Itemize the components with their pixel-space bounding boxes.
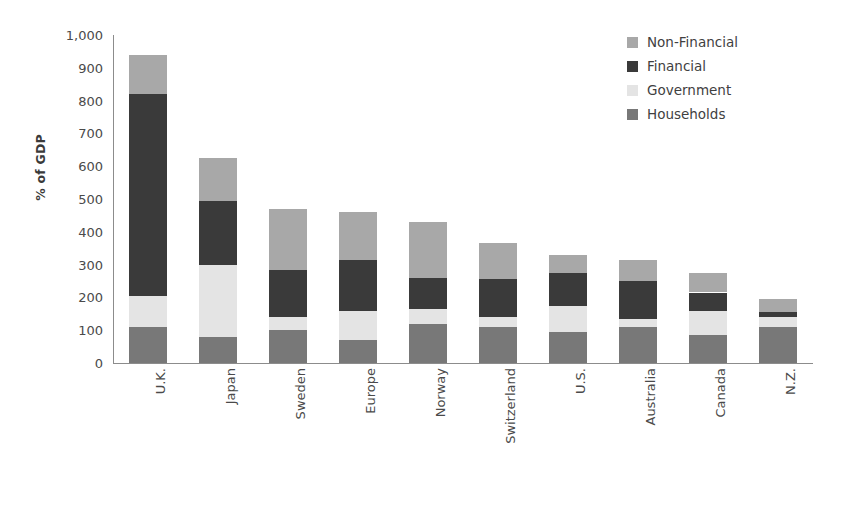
x-tick-label: Norway <box>433 368 448 488</box>
bar-segment[interactable] <box>689 293 727 311</box>
x-axis-tick-labels: U.K.JapanSwedenEuropeNorwaySwitzerlandU.… <box>113 366 813 486</box>
bar-segment[interactable] <box>759 327 797 363</box>
y-tick-label: 1,000 <box>43 29 103 42</box>
bar-group[interactable] <box>409 222 447 363</box>
bar-group[interactable] <box>549 255 587 363</box>
bar-group[interactable] <box>269 209 307 363</box>
legend-item[interactable]: Financial <box>627 54 837 78</box>
bar-segment[interactable] <box>759 317 797 327</box>
bar-segment[interactable] <box>479 327 517 363</box>
x-tick-label: Japan <box>223 368 238 488</box>
legend-label: Non-Financial <box>647 34 738 50</box>
bar-segment[interactable] <box>619 319 657 327</box>
x-tick-label: N.Z. <box>783 368 798 488</box>
x-tick-label: Canada <box>713 368 728 488</box>
legend-label: Government <box>647 82 731 98</box>
bar-segment[interactable] <box>479 279 517 317</box>
y-tick-label: 900 <box>43 61 103 74</box>
y-tick-label: 500 <box>43 193 103 206</box>
bar-segment[interactable] <box>409 222 447 278</box>
bar-segment[interactable] <box>549 332 587 363</box>
legend-swatch-icon <box>627 85 638 96</box>
y-tick-label: 400 <box>43 225 103 238</box>
bar-segment[interactable] <box>619 281 657 319</box>
x-tick-label: Europe <box>363 368 378 488</box>
bar-segment[interactable] <box>689 273 727 293</box>
legend-swatch-icon <box>627 61 638 72</box>
y-axis-tick-labels: 01002003004005006007008009001,000 <box>43 35 105 363</box>
bar-segment[interactable] <box>339 311 377 341</box>
legend-label: Households <box>647 106 725 122</box>
y-tick-label: 0 <box>43 357 103 370</box>
legend-label: Financial <box>647 58 706 74</box>
bar-segment[interactable] <box>409 324 447 363</box>
y-tick-label: 100 <box>43 324 103 337</box>
y-tick-label: 600 <box>43 160 103 173</box>
bar-segment[interactable] <box>129 55 167 94</box>
x-axis-line <box>113 363 813 364</box>
x-tick-label: U.S. <box>573 368 588 488</box>
bar-segment[interactable] <box>269 270 307 318</box>
legend-swatch-icon <box>627 109 638 120</box>
bar-segment[interactable] <box>549 306 587 332</box>
y-tick-label: 300 <box>43 258 103 271</box>
bar-segment[interactable] <box>619 327 657 363</box>
y-tick-label: 200 <box>43 291 103 304</box>
bar-segment[interactable] <box>199 201 237 265</box>
bar-group[interactable] <box>759 299 797 363</box>
legend-item[interactable]: Government <box>627 78 837 102</box>
bar-segment[interactable] <box>129 94 167 296</box>
x-tick-label: Sweden <box>293 368 308 488</box>
bar-segment[interactable] <box>339 260 377 311</box>
bar-segment[interactable] <box>269 330 307 363</box>
x-tick-label: Australia <box>643 368 658 488</box>
bar-segment[interactable] <box>129 296 167 327</box>
x-tick-label: Switzerland <box>503 368 518 488</box>
bar-segment[interactable] <box>759 312 797 317</box>
bar-segment[interactable] <box>199 158 237 201</box>
bar-segment[interactable] <box>409 309 447 324</box>
bar-segment[interactable] <box>549 273 587 306</box>
bar-segment[interactable] <box>759 299 797 312</box>
bar-group[interactable] <box>129 55 167 363</box>
bar-segment[interactable] <box>199 337 237 363</box>
y-tick-label: 800 <box>43 94 103 107</box>
bar-group[interactable] <box>689 273 727 363</box>
bar-group[interactable] <box>619 260 657 363</box>
legend-item[interactable]: Non-Financial <box>627 30 837 54</box>
bar-segment[interactable] <box>339 340 377 363</box>
y-tick-label: 700 <box>43 127 103 140</box>
bar-group[interactable] <box>479 243 517 363</box>
chart-legend: Non-FinancialFinancialGovernmentHousehol… <box>627 30 837 126</box>
bar-segment[interactable] <box>129 327 167 363</box>
bar-segment[interactable] <box>689 311 727 336</box>
bar-segment[interactable] <box>199 265 237 337</box>
bar-segment[interactable] <box>619 260 657 281</box>
bar-segment[interactable] <box>479 317 517 327</box>
bar-segment[interactable] <box>479 243 517 279</box>
bar-segment[interactable] <box>409 278 447 309</box>
legend-item[interactable]: Households <box>627 102 837 126</box>
bar-group[interactable] <box>339 212 377 363</box>
bar-segment[interactable] <box>269 317 307 330</box>
x-tick-label: U.K. <box>153 368 168 488</box>
legend-swatch-icon <box>627 37 638 48</box>
bar-segment[interactable] <box>269 209 307 270</box>
bar-segment[interactable] <box>339 212 377 260</box>
bar-segment[interactable] <box>549 255 587 273</box>
bar-segment[interactable] <box>689 335 727 363</box>
stacked-bar-chart: % of GDP 01002003004005006007008009001,0… <box>0 0 853 511</box>
bar-group[interactable] <box>199 158 237 363</box>
